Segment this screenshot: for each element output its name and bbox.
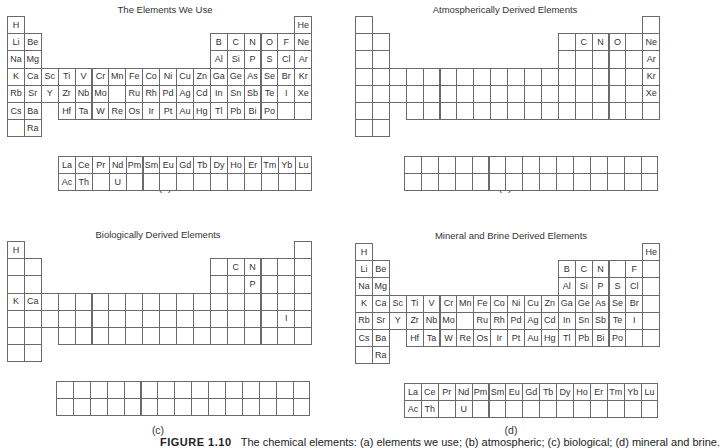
element-cell [210,310,228,328]
element-cell: F [277,33,295,51]
panel-label: (d) [505,424,518,436]
element-cell: S [609,277,627,295]
element-cell: Cu [524,295,542,313]
element-cell: I [277,85,295,103]
f-block-cell: La [404,383,422,401]
f-block-cell [141,398,159,416]
element-cell: As [592,295,610,313]
element-symbol: Al [215,55,223,64]
f-block-cell [225,381,243,399]
element-cell [261,327,279,345]
element-symbol: Mn [111,72,124,81]
f-block-cell: Dy [556,383,574,401]
element-symbol: Os [476,334,488,343]
f-block-cell [607,400,625,418]
f-block-cell [489,400,507,418]
element-cell [7,310,25,328]
element-symbol: Be [27,38,38,47]
element-cell [541,102,559,120]
element-cell [625,50,643,68]
element-symbol: Ba [375,334,386,343]
element-symbol: Cr [96,72,106,81]
element-cell [125,310,143,328]
element-cell [507,68,525,86]
element-cell [159,327,177,345]
element-cell [490,68,508,86]
f-block-cell: Ce [75,156,93,174]
element-cell: Si [227,50,245,68]
element-symbol: Rb [358,316,370,325]
element-cell: Cr [440,295,458,313]
element-cell: Zn [541,295,559,313]
element-cell: Te [261,85,279,103]
element-cell [575,68,593,86]
element-symbol: Re [112,107,124,116]
element-cell: Pd [507,312,525,330]
element-cell [389,85,407,103]
element-cell [176,310,194,328]
element-symbol: Os [128,107,140,116]
element-cell: As [244,68,262,86]
element-cell [642,260,660,278]
element-symbol: Ba [27,107,38,116]
element-cell [294,241,312,259]
element-symbol: Co [145,72,157,81]
element-cell: Ne [294,33,312,51]
element-cell: C [227,33,245,51]
element-symbol: I [285,314,288,323]
element-symbol: Yb [281,161,292,170]
element-cell: Al [558,277,576,295]
element-symbol: Cl [630,282,639,291]
f-block-cell: Pr [438,383,456,401]
f-block-cell [242,398,260,416]
element-cell: Ta [423,329,441,347]
element-symbol: Mg [375,282,388,291]
f-block-cell [174,381,192,399]
f-block-cell [276,398,294,416]
f-block-cell: Ac [58,173,76,191]
element-symbol: Pm [128,161,142,170]
element-symbol: Eu [509,388,520,397]
element-cell [261,310,279,328]
element-cell: O [609,33,627,51]
element-cell [541,85,559,103]
element-symbol: C [580,38,587,47]
element-cell [440,68,458,86]
f-block-cell [191,398,209,416]
element-symbol: Nb [78,89,90,98]
f-block-cell [607,173,625,191]
element-cell [490,85,508,103]
element-cell [558,68,576,86]
element-cell: Cr [92,68,110,86]
element-symbol: Na [358,282,370,291]
f-block-cell [522,173,540,191]
element-symbol: Cu [179,72,191,81]
element-cell: Rh [490,312,508,330]
element-cell: Kr [642,68,660,86]
element-cell [92,327,110,345]
element-symbol: Ru [128,89,140,98]
f-block-cell [107,381,125,399]
f-block-cell [556,156,574,174]
panel-title: The Elements We Use [118,4,213,15]
element-symbol: Au [179,107,190,116]
element-cell: He [294,16,312,34]
element-cell: Sn [575,312,593,330]
element-symbol: Po [612,334,623,343]
element-symbol: Ta [427,334,437,343]
element-symbol: Ar [647,55,656,64]
f-block-cell [295,173,313,191]
element-symbol: Ag [179,89,190,98]
element-cell [355,33,373,51]
f-block-cell [159,173,177,191]
element-cell [423,85,441,103]
panel-label: (c) [152,424,164,436]
element-symbol: Ce [424,388,436,397]
element-cell [524,68,542,86]
element-cell: Au [176,102,194,120]
f-block-cell [56,398,74,416]
f-block-cell [191,381,209,399]
element-cell [294,293,312,311]
element-cell [108,327,126,345]
element-cell: H [7,16,25,34]
